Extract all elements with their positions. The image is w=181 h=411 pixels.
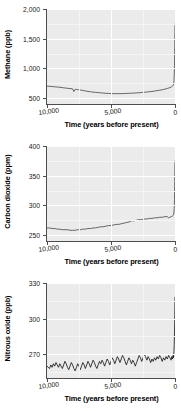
x-tick-label-n2o-3: 0 — [173, 383, 178, 390]
plot-area-carbon-dioxide — [47, 146, 175, 241]
x-tick-label-n2o-2: 5,000 — [104, 381, 122, 390]
x-tick-mark — [111, 379, 112, 382]
x-tick-mark — [175, 105, 176, 108]
plot-area-methane — [47, 9, 175, 104]
x-tick-label-co2-2: 5,000 — [104, 244, 122, 253]
x-tick-mark — [175, 242, 176, 245]
y-tick-label-co2-3: 350 — [29, 173, 40, 180]
x-tick-label-methane-2: 5,000 — [104, 107, 122, 116]
plot-area-nitrous-oxide — [47, 283, 175, 378]
y-tick-label-methane-4: 2,000 — [23, 6, 40, 13]
x-tick-mark — [111, 242, 112, 245]
y-tick-label-n2o-1: 270 — [29, 351, 40, 358]
y-tick-label-co2-2: 300 — [29, 202, 40, 209]
x-tick-mark — [47, 242, 48, 245]
x-tick-mark — [47, 105, 48, 108]
gridline-major-vertical — [111, 146, 112, 241]
panel-carbon-dioxide: Carbon dioxide (ppm) 400 350 300 250 10,… — [0, 137, 181, 274]
y-tick-mark — [43, 354, 46, 355]
y-tick-mark — [43, 39, 46, 40]
x-tick-label-co2-1: 10,000 — [38, 243, 59, 252]
y-tick-mark — [43, 176, 46, 177]
gridline-major-vertical — [111, 283, 112, 378]
y-tick-label-n2o-2: 300 — [29, 316, 40, 323]
gridline-minor-vertical — [79, 146, 80, 241]
x-tick-mark — [47, 379, 48, 382]
x-axis-title-methane: Time (years before present) — [47, 120, 176, 129]
y-tick-label-n2o-3: 330 — [29, 280, 40, 287]
panel-nitrous-oxide: Nitrous oxide (ppb) 330 300 270 10,000 5… — [0, 274, 181, 411]
y-tick-mark — [43, 146, 46, 147]
y-axis-line-carbon-dioxide — [46, 146, 47, 242]
y-tick-mark — [43, 283, 46, 284]
x-tick-label-methane-3: 0 — [173, 109, 178, 116]
panel-methane: Methane (ppb) 2,000 1,500 1,000 500 10,0… — [0, 0, 181, 137]
y-tick-label-co2-4: 400 — [29, 143, 40, 150]
y-tick-mark — [43, 205, 46, 206]
x-tick-mark — [175, 379, 176, 382]
y-tick-label-co2-1: 250 — [29, 232, 40, 239]
gridline-minor-vertical — [143, 146, 144, 241]
gridline-minor-vertical — [143, 283, 144, 378]
gridline-minor-vertical — [79, 9, 80, 104]
y-tick-label-methane-1: 500 — [29, 95, 40, 102]
gridline-major-vertical — [111, 9, 112, 104]
y-tick-mark — [43, 319, 46, 320]
x-axis-title-nitrous-oxide: Time (years before present) — [47, 394, 176, 403]
y-tick-label-methane-3: 1,500 — [23, 36, 40, 43]
gridline-minor-vertical — [79, 283, 80, 378]
y-tick-mark — [43, 235, 46, 236]
y-axis-line-nitrous-oxide — [46, 283, 47, 379]
y-tick-mark — [43, 98, 46, 99]
y-axis-title-methane: Methane (ppb) — [3, 0, 12, 110]
x-tick-label-n2o-1: 10,000 — [38, 380, 59, 389]
y-tick-mark — [43, 68, 46, 69]
x-tick-mark — [111, 105, 112, 108]
y-tick-label-methane-2: 1,000 — [23, 65, 40, 72]
x-axis-title-carbon-dioxide: Time (years before present) — [47, 257, 176, 266]
y-axis-title-carbon-dioxide: Carbon dioxide (ppm) — [3, 137, 12, 247]
greenhouse-gas-figure: Methane (ppb) 2,000 1,500 1,000 500 10,0… — [0, 0, 181, 411]
x-tick-label-methane-1: 10,000 — [38, 106, 59, 115]
y-axis-title-nitrous-oxide: Nitrous oxide (ppb) — [3, 274, 12, 384]
gridline-minor-vertical — [143, 9, 144, 104]
x-tick-label-co2-3: 0 — [173, 246, 178, 253]
y-axis-line-methane — [46, 9, 47, 105]
y-tick-mark — [43, 9, 46, 10]
